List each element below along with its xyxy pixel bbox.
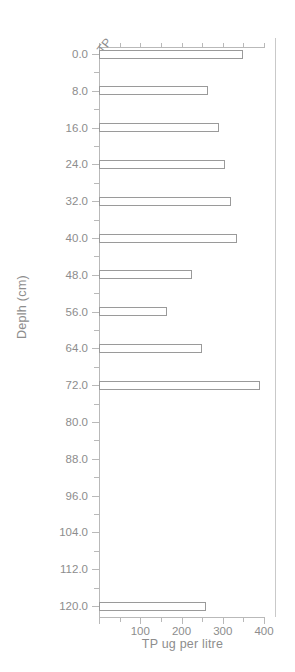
bar: [99, 602, 206, 611]
bar: [99, 270, 192, 279]
y-axis-tick: [92, 348, 99, 349]
x-axis-tick: [161, 618, 162, 622]
y-axis-tick: [92, 238, 99, 239]
y-axis-tick-label: 48.0: [34, 269, 88, 281]
bar: [99, 86, 208, 95]
y-axis-tick: [92, 496, 99, 497]
x-axis-top-line: [99, 47, 265, 48]
bar: [99, 50, 243, 59]
y-axis-tick: [94, 551, 99, 552]
y-axis-tick-label: 8.0: [34, 85, 88, 97]
x-axis-top-tick: [264, 43, 265, 47]
y-axis-tick: [92, 606, 99, 607]
bar: [99, 160, 225, 169]
x-axis-tick: [120, 618, 121, 622]
y-axis-tick: [94, 72, 99, 73]
x-axis-tick: [202, 618, 203, 622]
y-axis-tick-label: 88.0: [34, 453, 88, 465]
x-axis-top-tick: [161, 43, 162, 47]
y-axis-tick: [92, 459, 99, 460]
y-axis-title: Deplh (cm): [15, 247, 29, 367]
y-axis-tick: [94, 293, 99, 294]
y-axis-tick: [94, 514, 99, 515]
x-axis-tick: [140, 618, 141, 624]
y-axis-tick-label: 40.0: [34, 232, 88, 244]
y-axis-tick: [92, 422, 99, 423]
y-axis-tick-label: 16.0: [34, 122, 88, 134]
x-axis-tick: [243, 618, 244, 622]
y-axis-tick: [92, 312, 99, 313]
y-axis-tick: [92, 385, 99, 386]
y-axis-tick-label: 80.0: [34, 416, 88, 428]
y-axis-tick: [92, 164, 99, 165]
bar: [99, 234, 237, 243]
bar: [99, 381, 260, 390]
y-axis-tick: [94, 330, 99, 331]
y-axis-tick: [92, 91, 99, 92]
y-axis-tick: [92, 569, 99, 570]
y-axis-tick: [92, 128, 99, 129]
y-axis-tick: [94, 404, 99, 405]
x-axis-top-tick: [120, 43, 121, 47]
y-axis-tick: [92, 275, 99, 276]
x-axis-top-tick: [223, 43, 224, 47]
x-axis-tick: [99, 618, 100, 624]
bar: [99, 307, 167, 316]
y-axis-tick: [94, 440, 99, 441]
y-axis-tick-label: 72.0: [34, 379, 88, 391]
y-axis-tick: [94, 220, 99, 221]
y-axis-tick: [94, 256, 99, 257]
x-axis-tick: [264, 618, 265, 624]
x-axis-tick: [182, 618, 183, 624]
x-axis-tick-label: 400: [244, 625, 284, 637]
x-axis-tick-label: 100: [120, 625, 160, 637]
y-axis-tick-label: 64.0: [34, 342, 88, 354]
y-axis-tick: [92, 201, 99, 202]
y-axis-tick: [94, 109, 99, 110]
x-axis-tick: [223, 618, 224, 624]
y-axis-tick-label: 120.0: [34, 600, 88, 612]
y-axis-tick: [94, 146, 99, 147]
plot-right-border: [275, 38, 276, 617]
stratigraphic-bar-chart: Deplh (cm) TP ug per litre 1002003004000…: [0, 0, 295, 672]
y-axis-tick: [94, 588, 99, 589]
x-axis-top-tick: [140, 43, 141, 47]
y-axis-tick: [94, 183, 99, 184]
y-axis-tick-label: 24.0: [34, 158, 88, 170]
bar: [99, 123, 219, 132]
bar: [99, 344, 202, 353]
y-axis-tick: [92, 54, 99, 55]
y-axis-tick: [94, 477, 99, 478]
y-axis-tick-label: 112.0: [34, 563, 88, 575]
y-axis-tick-label: 32.0: [34, 195, 88, 207]
y-axis-tick-label: 96.0: [34, 490, 88, 502]
x-axis-tick-label: 300: [203, 625, 243, 637]
y-axis-tick-label: 0.0: [34, 48, 88, 60]
x-axis-title: TP ug per litre: [90, 637, 275, 651]
y-axis-tick: [92, 532, 99, 533]
bar: [99, 197, 231, 206]
y-axis-tick-label: 104.0: [34, 526, 88, 538]
y-axis-tick-label: 56.0: [34, 306, 88, 318]
x-axis-tick-label: 200: [162, 625, 202, 637]
x-axis-top-tick: [202, 43, 203, 47]
y-axis-tick: [94, 367, 99, 368]
x-axis-top-tick: [243, 43, 244, 47]
x-axis-top-tick: [182, 43, 183, 47]
